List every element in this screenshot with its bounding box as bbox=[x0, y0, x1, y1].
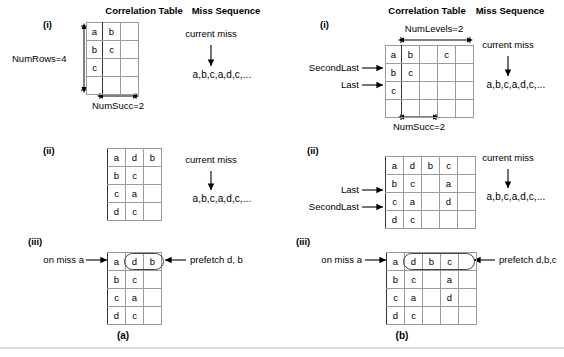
correlation-table-a-iii: adbbccadc bbox=[107, 252, 162, 325]
data-cell: b bbox=[387, 271, 405, 289]
table-body: adbbccadc bbox=[108, 149, 162, 221]
data-cell bbox=[103, 59, 121, 77]
table-row bbox=[386, 100, 474, 118]
on-miss-label-a: on miss a bbox=[43, 255, 84, 265]
data-cell: a bbox=[108, 253, 126, 271]
data-cell bbox=[121, 77, 139, 95]
data-cell: d bbox=[405, 253, 423, 271]
table-body: adbcbcacaddc bbox=[387, 253, 477, 325]
step-label-a-i: (i) bbox=[43, 20, 52, 30]
data-cell bbox=[458, 211, 476, 229]
data-cell bbox=[423, 271, 441, 289]
table-row: cad bbox=[387, 289, 477, 307]
table-row: adb bbox=[108, 149, 162, 167]
numrows-label-a: NumRows=4 bbox=[12, 54, 67, 64]
current-miss-label-b-i: current miss bbox=[482, 40, 534, 50]
data-cell: a bbox=[387, 253, 405, 271]
header-correlation-table-b: Correlation Table bbox=[388, 6, 465, 16]
data-cell bbox=[456, 82, 474, 100]
panel-label-a: (a) bbox=[117, 331, 129, 341]
data-cell: c bbox=[126, 271, 144, 289]
table-row: adbc bbox=[387, 253, 477, 271]
table-row: dc bbox=[108, 307, 162, 325]
table-row: bca bbox=[386, 175, 476, 193]
data-cell: c bbox=[126, 203, 144, 221]
data-cell bbox=[456, 64, 474, 82]
data-cell bbox=[402, 82, 420, 100]
table-body: abcbcc bbox=[386, 46, 474, 118]
data-cell: b bbox=[423, 253, 441, 271]
on-miss-label-b: on miss a bbox=[321, 255, 362, 265]
miss-sequence-a-i: a,b,c,a,d,c,... bbox=[193, 70, 252, 80]
table-row: cad bbox=[386, 193, 476, 211]
tag-cell: b bbox=[87, 41, 103, 59]
figure-canvas: Correlation Table Miss Sequence (i) NumR… bbox=[0, 0, 564, 357]
table-row: adb bbox=[108, 253, 162, 271]
data-cell: d bbox=[404, 157, 422, 175]
numlevels-bracket-b bbox=[398, 37, 473, 43]
current-miss-label-a-i: current miss bbox=[185, 29, 237, 39]
data-cell bbox=[422, 193, 440, 211]
correlation-table-b-iii: adbcbcacaddc bbox=[386, 252, 477, 325]
data-cell: d bbox=[126, 149, 144, 167]
data-cell: c bbox=[108, 289, 126, 307]
numsucc-label-a: NumSucc=2 bbox=[92, 101, 144, 111]
data-cell bbox=[459, 307, 477, 325]
data-cell bbox=[440, 211, 458, 229]
correlation-table-a-i: abbcc bbox=[86, 22, 139, 95]
correlation-table-a-ii: adbbccadc bbox=[107, 148, 162, 221]
table-row bbox=[87, 77, 139, 95]
data-cell bbox=[458, 157, 476, 175]
step-label-b-ii: (ii) bbox=[307, 146, 319, 156]
data-cell: b bbox=[144, 253, 162, 271]
prefetch-label-b: prefetch d,b,c bbox=[499, 255, 557, 265]
data-cell bbox=[420, 64, 438, 82]
data-cell bbox=[459, 289, 477, 307]
table-row: ca bbox=[108, 289, 162, 307]
data-cell: d bbox=[441, 289, 459, 307]
miss-sequence-b-ii: a,b,c,a,d,c,... bbox=[487, 192, 546, 202]
tag-cell: c bbox=[87, 59, 103, 77]
miss-sequence-a-ii: a,b,c,a,d,c,... bbox=[193, 194, 252, 204]
data-cell: b bbox=[144, 149, 162, 167]
table-row: bca bbox=[387, 271, 477, 289]
data-cell bbox=[420, 100, 438, 118]
data-cell bbox=[438, 82, 456, 100]
header-miss-sequence-b: Miss Sequence bbox=[476, 6, 545, 16]
tag-cell: a bbox=[386, 46, 402, 64]
table-row: bc bbox=[108, 167, 162, 185]
table-row: dc bbox=[387, 307, 477, 325]
tag-cell: c bbox=[386, 82, 402, 100]
table-row: bc bbox=[386, 64, 474, 82]
miss-sequence-b-i: a,b,c,a,d,c,... bbox=[487, 80, 546, 90]
data-cell bbox=[459, 253, 477, 271]
tag-cell bbox=[386, 100, 402, 118]
tag-cell: a bbox=[87, 23, 103, 41]
data-cell: d bbox=[108, 203, 126, 221]
header-correlation-table-a: Correlation Table bbox=[105, 6, 182, 16]
data-cell: b bbox=[103, 23, 121, 41]
data-cell bbox=[144, 167, 162, 185]
numlevels-label-b: NumLevels=2 bbox=[405, 24, 463, 34]
data-cell: d bbox=[108, 307, 126, 325]
table-body: adbbccadc bbox=[108, 253, 162, 325]
table-row: c bbox=[386, 82, 474, 100]
step-label-b-i: (i) bbox=[320, 20, 329, 30]
data-cell bbox=[144, 307, 162, 325]
data-cell: c bbox=[438, 46, 456, 64]
step-label-a-ii: (ii) bbox=[43, 146, 55, 156]
tag-cell: b bbox=[386, 64, 402, 82]
data-cell bbox=[422, 211, 440, 229]
data-cell: c bbox=[441, 253, 459, 271]
annotation-overlay bbox=[0, 0, 564, 357]
data-cell: b bbox=[108, 271, 126, 289]
table-row: bc bbox=[108, 271, 162, 289]
data-cell bbox=[423, 307, 441, 325]
current-miss-label-a-ii: current miss bbox=[185, 155, 237, 165]
data-cell bbox=[458, 175, 476, 193]
data-cell bbox=[438, 64, 456, 82]
data-cell: c bbox=[404, 211, 422, 229]
last-label-b-i: Last bbox=[341, 80, 359, 90]
numsucc-label-b: NumSucc=2 bbox=[393, 122, 445, 132]
data-cell: c bbox=[405, 307, 423, 325]
